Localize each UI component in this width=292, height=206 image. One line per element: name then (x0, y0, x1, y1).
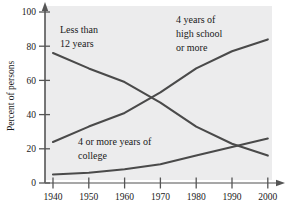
ann-high-school-line1: 4 years of (176, 14, 216, 25)
chart-figure: 0 20 40 60 80 100 1940 1950 1960 1970 19… (0, 0, 292, 206)
x-tick-label-1960: 1960 (115, 192, 134, 202)
y-tick-label-100: 100 (22, 7, 37, 17)
ann-high-school-line2: high school (176, 28, 223, 39)
y-tick-label-20: 20 (27, 144, 37, 154)
x-axis-tick-labels: 1940 1950 1960 1970 1980 1990 2000 (44, 192, 278, 202)
y-tick-label-80: 80 (27, 42, 37, 52)
ann-less-than-12-line1: Less than (60, 24, 98, 35)
x-tick-label-1990: 1990 (223, 192, 242, 202)
x-tick-label-1980: 1980 (187, 192, 206, 202)
ann-college-line2: college (78, 150, 107, 161)
x-tick-label-1970: 1970 (151, 192, 170, 202)
y-axis-title: Percent of persons (6, 61, 16, 131)
y-tick-label-40: 40 (27, 110, 37, 120)
ann-high-school-line3: or more (176, 42, 208, 53)
x-tick-label-1940: 1940 (44, 192, 63, 202)
line-chart: 0 20 40 60 80 100 1940 1950 1960 1970 19… (0, 0, 292, 206)
x-tick-label-2000: 2000 (258, 192, 277, 202)
y-axis-tick-labels: 0 20 40 60 80 100 (22, 7, 37, 188)
x-axis-arrow-icon (276, 180, 285, 186)
x-tick-label-1950: 1950 (79, 192, 98, 202)
y-tick-label-0: 0 (31, 178, 36, 188)
ann-less-than-12-line2: 12 years (60, 38, 94, 49)
y-tick-label-60: 60 (27, 76, 37, 86)
ann-college-line1: 4 or more years of (78, 136, 152, 147)
